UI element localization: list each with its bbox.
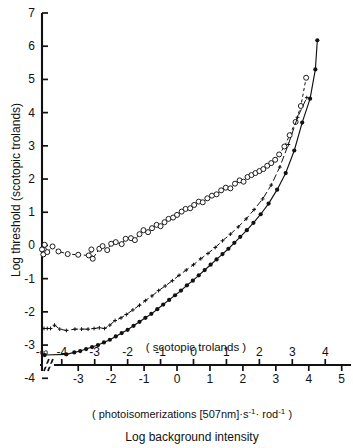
data-point-open-circle [146, 230, 151, 235]
x-tick-top-label: -2 [122, 345, 133, 359]
data-point-filled-circle [72, 350, 76, 354]
data-point-open-circle [42, 242, 47, 247]
data-point-filled-circle [209, 263, 213, 267]
data-point-filled-circle [245, 228, 249, 232]
data-point-filled-circle [214, 257, 218, 261]
data-point-open-circle [50, 244, 55, 249]
data-point-open-circle [40, 247, 45, 252]
x-tick-bottom-label: 2 [240, 372, 247, 386]
data-point-filled-circle [220, 252, 224, 256]
data-point-filled-circle [191, 279, 195, 283]
data-point-filled-circle [292, 148, 296, 152]
data-point-open-circle [90, 256, 95, 261]
data-point-open-circle [105, 248, 110, 253]
data-point-open-circle [113, 240, 118, 245]
data-point-open-circle [214, 192, 219, 197]
data-series-layer [40, 38, 320, 357]
data-point-open-circle [282, 144, 287, 149]
x-tick-bottom-label: -1 [139, 372, 150, 386]
data-point-filled-circle [173, 293, 177, 297]
data-point-filled-circle [259, 212, 263, 216]
x-tick-bottom-label: 1 [207, 372, 214, 386]
data-point-open-circle [132, 238, 137, 243]
x-axis-title-scotopic: ( scotopic trolands ) [146, 341, 247, 353]
data-point-filled-circle [120, 331, 124, 335]
y-tick-label: 0 [28, 238, 35, 252]
data-point-filled-circle [161, 302, 165, 306]
x-tick-top-label: 3 [289, 345, 296, 359]
y-tick-label: -3 [24, 338, 35, 352]
data-point-open-circle [123, 236, 128, 241]
y-tick-label: 5 [28, 72, 35, 86]
data-point-filled-circle [203, 268, 207, 272]
data-point-open-circle [192, 202, 197, 207]
data-point-open-circle [287, 133, 292, 138]
data-point-filled-circle [313, 67, 317, 71]
data-point-open-circle [89, 247, 94, 252]
data-point-open-circle [119, 242, 124, 247]
data-point-open-circle [150, 226, 155, 231]
x-tick-top-label: -∞ [36, 345, 49, 359]
x-axis-title-main: Log background intensity [125, 430, 258, 444]
data-point-open-circle [219, 188, 224, 193]
data-point-open-circle [158, 224, 163, 229]
data-point-filled-circle [84, 347, 88, 351]
data-point-open-circle [175, 212, 180, 217]
axes-group [40, 13, 351, 378]
data-point-filled-circle [102, 340, 106, 344]
data-point-open-circle [56, 249, 61, 254]
data-point-filled-circle [185, 283, 189, 287]
data-point-filled-circle [126, 328, 130, 332]
data-point-filled-circle [143, 316, 147, 320]
data-point-open-circle [65, 252, 70, 257]
data-point-filled-circle [78, 349, 82, 353]
y-tick-label: 1 [28, 205, 35, 219]
x-tick-bottom-label: 5 [338, 372, 345, 386]
y-tick-label: -1 [24, 272, 35, 286]
data-point-filled-circle [155, 307, 159, 311]
data-point-open-circle [228, 186, 233, 191]
threshold-vs-background-chart: -4-3-2-101234567-∞-4-3-2-101234-3-2-1012… [0, 0, 353, 448]
x-tick-bottom-label: 3 [272, 372, 279, 386]
data-point-filled-circle [197, 273, 201, 277]
y-tick-label: 4 [28, 106, 35, 120]
data-point-open-circle [76, 252, 81, 257]
data-point-filled-circle [266, 202, 270, 206]
data-point-open-circle [205, 196, 210, 201]
x-tick-bottom-label: 4 [305, 372, 312, 386]
x-tick-bottom-label: -2 [106, 372, 117, 386]
data-point-filled-circle [275, 188, 279, 192]
axis-break-gap [43, 364, 54, 367]
y-tick-label: 2 [28, 172, 35, 186]
data-point-open-circle [200, 200, 205, 205]
data-point-filled-circle [131, 324, 135, 328]
data-point-open-circle [232, 181, 237, 186]
y-tick-label: 3 [28, 139, 35, 153]
y-tick-label: 7 [28, 6, 35, 20]
data-point-filled-circle [232, 241, 236, 245]
y-tick-label: -2 [24, 305, 35, 319]
data-point-filled-circle [167, 298, 171, 302]
x-tick-top-label: 2 [256, 345, 263, 359]
data-point-open-circle [241, 179, 246, 184]
x-tick-top-label: -4 [56, 345, 67, 359]
data-point-open-circle [273, 157, 278, 162]
figure-root: -4-3-2-101234567-∞-4-3-2-101234-3-2-1012… [0, 0, 353, 448]
data-point-filled-circle [308, 97, 312, 101]
y-tick-label: -4 [24, 371, 35, 385]
data-point-filled-circle [251, 221, 255, 225]
data-point-filled-circle [315, 38, 319, 42]
x-tick-bottom-label: 0 [174, 372, 181, 386]
data-point-filled-circle [226, 247, 230, 251]
x-axis-title-photoisomerizations: ( photoisomerizations [507nm]·s-1· rod-1… [92, 407, 292, 420]
data-point-filled-circle [284, 171, 288, 175]
axis-labels-group: -4-3-2-101234567-∞-4-3-2-101234-3-2-1012… [9, 6, 345, 444]
x-tick-bottom-label: -3 [73, 372, 84, 386]
y-axis-title: Log threshold (scotopic trolands) [9, 103, 23, 277]
data-point-open-circle [277, 152, 282, 157]
data-point-open-circle [100, 244, 105, 249]
data-point-filled-circle [137, 320, 141, 324]
series-open-circles [40, 75, 309, 261]
data-point-filled-circle [238, 235, 242, 239]
data-point-filled-circle [179, 289, 183, 293]
